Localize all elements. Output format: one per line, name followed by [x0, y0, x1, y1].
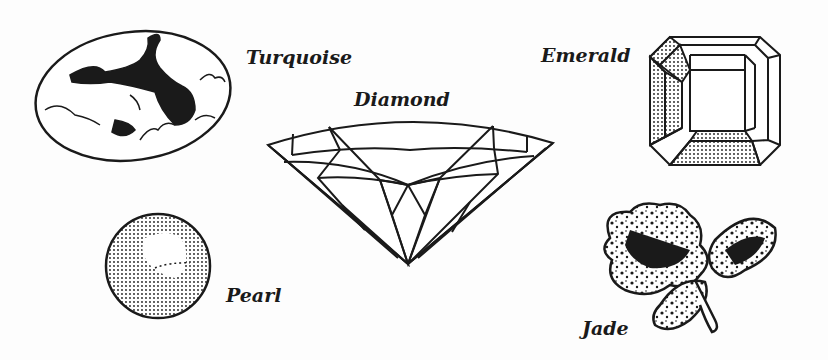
emerald-gem-icon [650, 37, 780, 165]
jade-gem-icon [604, 204, 775, 332]
gemstone-illustration: Turquoise Diamond Emerald Pearl Jade [0, 0, 828, 360]
gem-drawings [0, 0, 828, 360]
diamond-gem-icon [268, 122, 553, 264]
turquoise-gem-icon [27, 19, 239, 173]
jade-label: Jade [582, 317, 629, 339]
emerald-label: Emerald [541, 44, 631, 66]
turquoise-label: Turquoise [246, 46, 352, 68]
diamond-label: Diamond [354, 88, 450, 110]
pearl-label: Pearl [226, 284, 281, 306]
pearl-gem-icon [106, 214, 210, 318]
